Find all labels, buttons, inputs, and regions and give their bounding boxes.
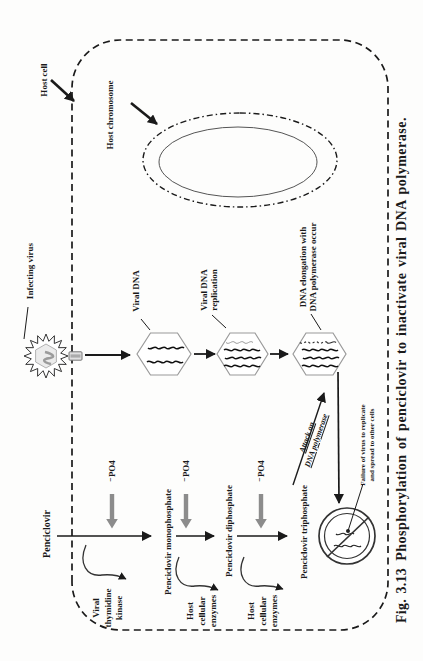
label-line: Viral	[91, 588, 103, 627]
po4-label-1: ⁻PO4	[107, 460, 117, 482]
enzyme-hook-arrow-3	[241, 557, 283, 589]
label-line: Failure of virus to replicate	[359, 404, 368, 485]
penciclovir-diphosphate-label: Penciclovir diphosphate	[224, 485, 234, 577]
penciclovir-triphosphate-label: Penciclovir triphosphate	[299, 485, 309, 579]
membrane-pore-channel	[71, 354, 81, 357]
po4-label-2: ⁻PO4	[181, 460, 191, 482]
label-line: DNA elongation with	[298, 223, 308, 312]
figure-caption-number: Fig. 3.13	[394, 568, 409, 623]
enzyme-hook-arrow-2	[176, 557, 218, 590]
diagram-stage: Host cell Host chromosome Infecting viru…	[0, 0, 423, 661]
enzyme-hook-arrow-1	[83, 545, 126, 579]
host-cell-arrow	[51, 80, 74, 101]
po4-arrow-3	[255, 494, 267, 529]
viral-thymidine-kinase-label: Viral thymidine kinase	[91, 588, 126, 627]
viral-dna-hexagon	[137, 333, 191, 375]
label-line: thymidine	[102, 588, 114, 627]
label-line: Viral DNA	[199, 269, 209, 310]
host-cellular-enzymes-label-1: Host cellular enzymes	[185, 595, 220, 628]
label-line: enzymes	[269, 595, 281, 628]
infecting-virus-callout-line	[24, 307, 28, 339]
viral-dna-replication-label: Viral DNA replication	[199, 269, 219, 310]
dna-elongation-hexagon	[293, 333, 346, 375]
replication-callout-line	[212, 315, 226, 328]
label-line: and spread to other cells	[368, 404, 377, 485]
po4-label-3: ⁻PO4	[256, 460, 266, 482]
po4-arrow-2	[180, 494, 192, 529]
figure-scan: Host cell Host chromosome Infecting viru…	[0, 0, 423, 661]
label-line: kinase	[114, 588, 126, 627]
host-chromosome-inner	[159, 127, 317, 197]
elongation-callout-line	[311, 314, 321, 330]
infecting-virus-label: Infecting virus	[25, 243, 35, 299]
viral-dna-label: Viral DNA	[131, 270, 141, 311]
failure-label: Failure of virus to replicate and spread…	[359, 404, 377, 485]
label-line: cellular	[257, 595, 269, 628]
viral-dna-callout-line	[141, 319, 150, 330]
label-line: Host	[246, 595, 258, 628]
po4-arrow-1	[106, 494, 118, 529]
host-cell-label: Host cell	[39, 63, 49, 96]
host-chromosome-label: Host chromosome	[105, 80, 115, 149]
penciclovir-label: Penciclovir	[42, 510, 52, 558]
host-chromosome-arrow	[131, 103, 157, 124]
label-line: enzymes	[208, 595, 220, 628]
figure-caption: Fig. 3.13Phosphorylation of penciclovir …	[397, 117, 407, 623]
viral-dna-replication-hexagon	[217, 333, 268, 375]
diagram-artwork	[0, 0, 423, 661]
label-line: Host	[185, 595, 197, 628]
inhibition-arrow	[338, 372, 339, 503]
dna-elongation-label: DNA elongation with DNA polymerase occur	[298, 223, 318, 312]
label-line: cellular	[196, 595, 208, 628]
figure-caption-text: Phosphorylation of penciclovir to inacti…	[394, 117, 409, 561]
label-line: DNA polymerase occur	[308, 223, 318, 312]
label-line: replication	[209, 269, 219, 310]
host-cellular-enzymes-label-2: Host cellular enzymes	[246, 595, 281, 628]
penciclovir-monophosphate-label: Penciclovir monophosphate	[163, 489, 173, 595]
